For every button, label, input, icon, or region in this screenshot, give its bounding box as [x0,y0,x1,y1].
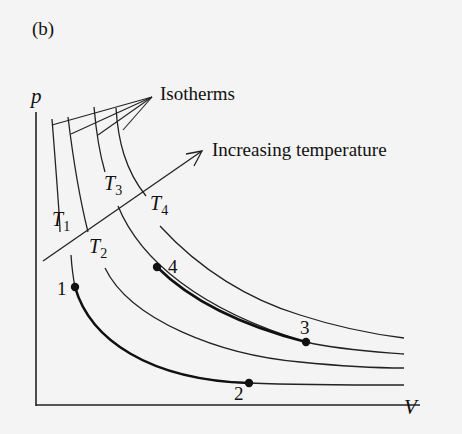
point-2 [245,379,253,387]
point-3 [302,338,310,346]
isotherms-label: Isotherms [160,83,235,104]
pv-diagram: (b) p V Isotherms Increasing temperature… [0,0,462,434]
point-label-1: 1 [57,278,67,299]
point-label-4: 4 [168,256,178,277]
isotherm-pointer [71,97,152,134]
isotherm-pointer [123,97,152,130]
point-label-2: 2 [234,383,244,404]
point-1 [71,283,79,291]
point-4 [153,263,161,271]
isotherm-pointer [98,97,152,135]
isotherm-label-t1: T1 [52,208,70,234]
isotherm-pointer [52,97,152,125]
panel-label: (b) [32,18,54,40]
isotherm-label-t4: T4 [150,192,168,218]
increasing-temperature-label: Increasing temperature [212,139,387,160]
x-axis-label: V [404,395,419,419]
y-axis-label: p [29,84,42,108]
isotherm-label-t2: T2 [89,235,107,261]
isotherm-label-t3: T3 [104,172,122,198]
process-1-2 [75,287,249,383]
point-label-3: 3 [300,317,310,338]
